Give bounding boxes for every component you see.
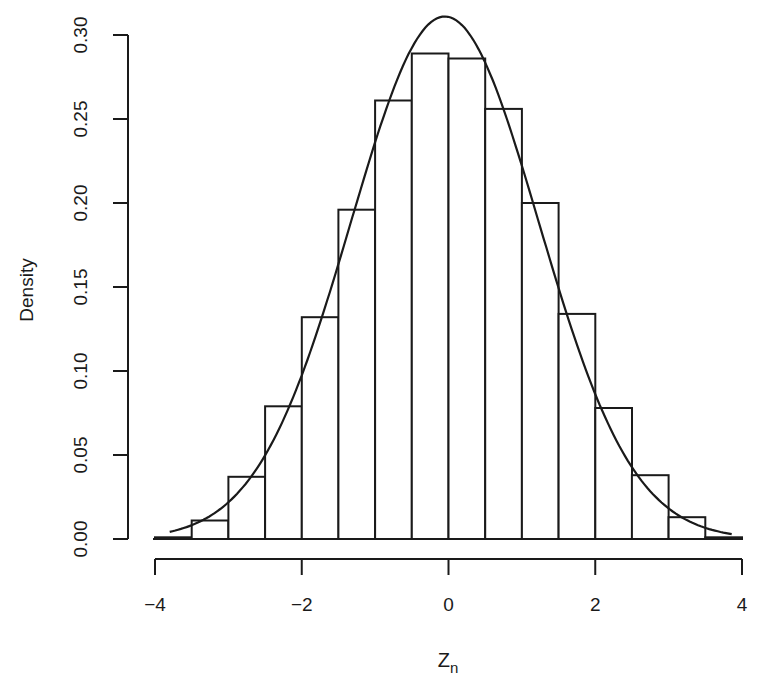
x-axis-label-main: Z xyxy=(438,649,450,671)
y-tick-label: 0.25 xyxy=(70,101,91,138)
y-axis-label: Density xyxy=(16,258,37,322)
x-axis-label: Zn xyxy=(438,649,459,676)
x-tick-label: 0 xyxy=(443,594,454,615)
histogram-bar xyxy=(632,475,669,539)
x-tick-label: 4 xyxy=(737,594,748,615)
y-tick-label: 0.10 xyxy=(70,353,91,390)
x-tick-label: −2 xyxy=(291,594,313,615)
y-tick-label: 0.15 xyxy=(70,269,91,306)
y-axis: 0.000.050.100.150.200.250.30 xyxy=(70,17,128,558)
histogram-bar xyxy=(595,408,632,539)
histogram-bar xyxy=(375,101,412,540)
histogram-bar xyxy=(338,210,375,539)
histogram-bar xyxy=(449,59,486,540)
histogram-bar xyxy=(265,406,302,539)
histogram-chart: 0.000.050.100.150.200.250.30 −4−2024 Den… xyxy=(0,0,760,692)
x-tick-label: −4 xyxy=(144,594,166,615)
histogram-bar xyxy=(302,317,339,539)
histogram-bars xyxy=(155,54,742,540)
y-tick-label: 0.05 xyxy=(70,437,91,474)
x-axis-label-subscript: n xyxy=(450,659,458,676)
y-tick-label: 0.30 xyxy=(70,17,91,54)
histogram-bar xyxy=(228,477,265,539)
x-axis: −4−2024 xyxy=(144,559,748,615)
y-tick-label: 0.20 xyxy=(70,185,91,222)
y-tick-label: 0.00 xyxy=(70,521,91,558)
histogram-bar xyxy=(412,54,449,540)
x-tick-label: 2 xyxy=(590,594,601,615)
histogram-bar xyxy=(522,203,559,539)
histogram-bar xyxy=(485,109,522,539)
